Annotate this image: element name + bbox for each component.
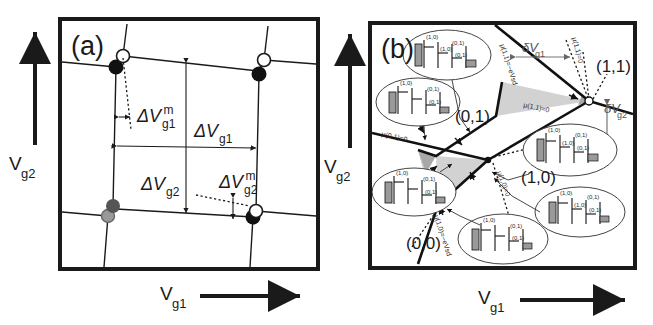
- panel-a-x-axis-sublabel: g1: [172, 296, 186, 311]
- svg-text:(1,0): (1,0): [562, 140, 574, 146]
- panel-b-x-axis-sublabel: g1: [490, 300, 504, 315]
- svg-text:(0,1): (0,1): [425, 189, 437, 195]
- panel-b-leader-6: [447, 209, 480, 225]
- panel-b-mu-label-2: μ(1,1)=0: [570, 36, 585, 64]
- svg-text:(0,1): (0,1): [512, 235, 524, 241]
- panel-a-triple-point-open-2: [258, 54, 271, 67]
- svg-text:(0,1): (0,1): [587, 194, 599, 200]
- svg-text:(1,0): (1,0): [574, 202, 586, 208]
- panel-b-inset-left-upper: (1,0) (0,1) (0,1): [376, 78, 460, 126]
- panel-b-state-10: (1,0): [521, 168, 556, 187]
- panel-b-mu-label-1: μ(1,1)=−eVsd: [498, 43, 519, 86]
- svg-text:(0,1): (0,1): [427, 86, 439, 92]
- panel-a: V g2 V g1: [9, 19, 318, 311]
- panel-b-dotted-leader-11c: [593, 74, 607, 99]
- panel-a-label-delta-vg2m: ΔV g2m: [218, 169, 258, 197]
- panel-a-label-delta-vg1: ΔV g1: [193, 121, 233, 146]
- panel-b-mu-label-5: μ(1,0)=0: [495, 170, 512, 198]
- panel-a-label-delta-vg2: ΔV g2: [140, 174, 180, 199]
- svg-text:(0,1): (0,1): [429, 99, 441, 105]
- panel-b-y-axis-sublabel: g2: [336, 169, 350, 184]
- svg-text:(0,1): (0,1): [589, 207, 601, 213]
- panel-a-y-axis-sublabel: g2: [21, 166, 35, 181]
- svg-text:(1,0): (1,0): [396, 170, 408, 176]
- panel-b-inset-left-lower: (1,0) (0,1) (0,1): [372, 168, 456, 216]
- svg-text:(0,1): (0,1): [455, 52, 467, 58]
- panel-b-state-00: (0,0): [406, 234, 441, 253]
- svg-text:(0,1): (0,1): [575, 132, 587, 138]
- svg-text:(1,0): (1,0): [548, 127, 560, 133]
- svg-text:(0,1): (0,1): [423, 176, 435, 182]
- svg-text:(1,0): (1,0): [483, 217, 495, 223]
- svg-text:(0,1): (0,1): [577, 145, 589, 151]
- panel-a-label-delta-vg1m: ΔV g1m: [136, 103, 176, 131]
- panel-b-label: (b): [381, 34, 414, 64]
- panel-b-inset-right-lower: (1,0) (1,0) (0,1) (0,1): [535, 187, 625, 237]
- panel-a-triple-point-open-1: [117, 50, 130, 63]
- svg-text:(1,0): (1,0): [400, 80, 412, 86]
- svg-text:(0,1): (0,1): [510, 223, 522, 229]
- panel-a-triple-point-gray-2: [106, 199, 120, 213]
- panel-b: V g2 V g1: [324, 23, 635, 315]
- svg-text:(1,0): (1,0): [560, 190, 572, 196]
- svg-text:(0,1): (0,1): [452, 40, 464, 46]
- panel-a-triple-point-open-3: [250, 205, 263, 218]
- panel-b-inset-top: (1,0) (1,0) (0,1) (0,1): [403, 30, 491, 80]
- svg-text:(1,0): (1,0): [440, 46, 452, 52]
- figure-root: V g2 V g1: [0, 0, 653, 325]
- panel-a-guide-dot-vg1m: [123, 58, 131, 130]
- svg-text:(1,0): (1,0): [426, 34, 438, 40]
- panel-b-state-11: (1,1): [596, 57, 631, 76]
- panel-b-triple-point-open: [585, 97, 593, 105]
- panel-b-leader-2: [424, 126, 425, 140]
- panel-a-triple-point-filled-2: [252, 67, 267, 82]
- panel-b-state-01: (0,1): [455, 107, 490, 126]
- panel-a-label: (a): [71, 31, 104, 61]
- panel-a-guide-dot-vg2m: [196, 195, 250, 206]
- panel-b-mu-label-4: μ(0,1)=0: [381, 130, 409, 144]
- panel-b-triple-point-filled: [485, 157, 491, 163]
